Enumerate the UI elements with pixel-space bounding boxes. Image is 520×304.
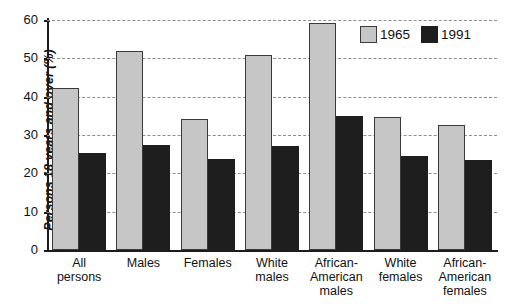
category-label-line: White [368,256,432,270]
category-label-line: Males [111,256,175,270]
bar-1965-6 [438,125,465,250]
y-axis-tick-mark [44,250,50,252]
y-axis-tick-label: 30 [0,128,38,141]
x-axis-category-label: African-Americanfemales [433,256,497,298]
x-axis-category-label: Whitefemales [368,256,432,284]
legend-swatch-1965 [360,26,377,43]
x-axis-category-label: Females [176,256,240,270]
gridline [47,20,497,21]
x-axis-line [46,250,498,252]
legend-label-1991: 1991 [441,27,471,42]
bar-1991-3 [272,146,299,250]
bar-chart: Persons 18 years and over (%) 6050403020… [0,0,520,304]
x-axis-category-label: Allpersons [47,256,111,284]
category-label-line: All [47,256,111,270]
y-axis-tick-label: 60 [0,13,38,26]
bar-1965-2 [181,119,208,250]
y-axis-tick-label: 20 [0,166,38,179]
category-label-line: African- [304,256,368,270]
x-axis-category-label: Males [111,256,175,270]
legend-entry-1991: 1991 [421,26,471,43]
bar-1991-5 [401,156,428,250]
gridline [47,97,497,98]
category-label-line: American [433,270,497,284]
bar-1991-2 [208,159,235,250]
legend-swatch-1991 [421,26,438,43]
bar-1965-1 [116,51,143,250]
category-label-line: persons [47,270,111,284]
legend-entry-1965: 1965 [360,26,410,43]
legend: 1965 1991 [360,26,471,43]
gridline [47,58,497,59]
bar-1965-0 [52,88,79,250]
category-label-line: females [368,270,432,284]
bar-1991-1 [143,145,170,250]
category-label-line: White [240,256,304,270]
bar-1965-5 [374,117,401,250]
y-axis-tick-label: 50 [0,51,38,64]
plot-area [47,20,497,250]
y-axis-tick-label: 10 [0,205,38,218]
bar-1991-4 [336,116,363,250]
category-label-line: Females [176,256,240,270]
y-axis-tick-label: 0 [0,243,38,256]
y-axis-tick-label: 40 [0,90,38,103]
category-label-line: females [433,284,497,298]
x-axis-category-label: Whitemales [240,256,304,284]
category-label-line: males [240,270,304,284]
bar-1991-0 [79,153,106,250]
bar-1991-6 [465,160,492,250]
category-label-line: American [304,270,368,284]
x-axis-category-label: African-Americanmales [304,256,368,298]
category-label-line: males [304,284,368,298]
category-label-line: African- [433,256,497,270]
legend-label-1965: 1965 [380,27,410,42]
bar-1965-4 [309,23,336,250]
bar-1965-3 [245,55,272,250]
gridline [47,135,497,136]
